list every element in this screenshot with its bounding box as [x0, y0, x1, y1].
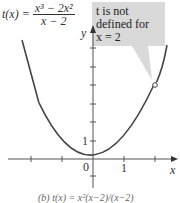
origin-label: 0: [83, 160, 89, 175]
formula-denominator: x − 2: [41, 15, 66, 27]
x-tick-label-1: 1: [121, 161, 127, 176]
y-axis-label: y: [81, 26, 86, 41]
figure-caption: (b) t(x) = x²(x−2)/(x−2): [38, 192, 134, 203]
x-axis-arrow-icon: [171, 156, 178, 162]
curve-t-of-x-left-tail: [22, 40, 39, 102]
graph: [0, 0, 180, 203]
callout-text: t is not defined for x = 2: [96, 5, 149, 44]
curve-t-of-x-upper: [156, 45, 167, 83]
formula-fraction: x³ − 2x² x − 2: [33, 2, 75, 27]
callout-line-3: x = 2: [96, 31, 149, 44]
x-axis-label: x: [170, 163, 175, 178]
formula-lhs: t(x) =: [2, 7, 30, 22]
open-circle-hole: [153, 83, 158, 88]
y-tick-label-1: 1: [82, 134, 88, 149]
function-formula: t(x) = x³ − 2x² x − 2: [2, 2, 75, 27]
curve-t-of-x: [39, 86, 154, 156]
